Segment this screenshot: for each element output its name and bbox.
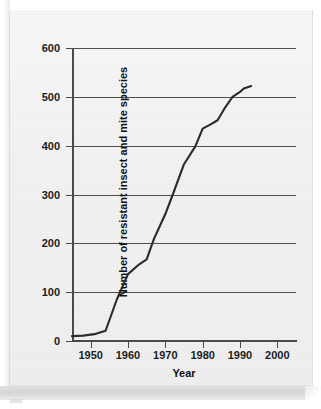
plate-bottom-bevel	[0, 386, 321, 400]
plate-left-bevel-edge	[9, 12, 10, 388]
x-tick-1960	[128, 342, 129, 348]
x-axis-title: Year	[72, 367, 296, 379]
y-tick-label-500: 500	[20, 92, 60, 103]
y-tick-label-400: 400	[20, 141, 60, 152]
scan-artifact-mark	[10, 399, 22, 403]
series-line-resistant-species	[72, 86, 251, 336]
x-tick-1990	[240, 342, 241, 348]
x-tick-label-1950: 1950	[71, 350, 111, 361]
x-tick-2000	[277, 342, 278, 348]
x-tick-1950	[91, 342, 92, 348]
chart-figure: 600 500 400 300 200 100 0 Number of resi…	[0, 0, 321, 409]
y-tick-label-300: 300	[20, 190, 60, 201]
x-tick-1980	[203, 342, 204, 348]
x-tick-label-1960: 1960	[108, 350, 148, 361]
y-tick-label-100: 100	[20, 287, 60, 298]
y-tick-label-200: 200	[20, 238, 60, 249]
x-tick-label-1970: 1970	[145, 350, 185, 361]
data-line-svg	[72, 48, 296, 342]
x-tick-label-1980: 1980	[183, 350, 223, 361]
x-tick-label-2000: 2000	[257, 350, 297, 361]
plate-bottom-right-corner	[305, 386, 321, 400]
x-tick-label-1990: 1990	[220, 350, 260, 361]
x-tick-1970	[165, 342, 166, 348]
y-tick-label-600: 600	[20, 43, 60, 54]
y-tick-label-0: 0	[20, 336, 60, 347]
